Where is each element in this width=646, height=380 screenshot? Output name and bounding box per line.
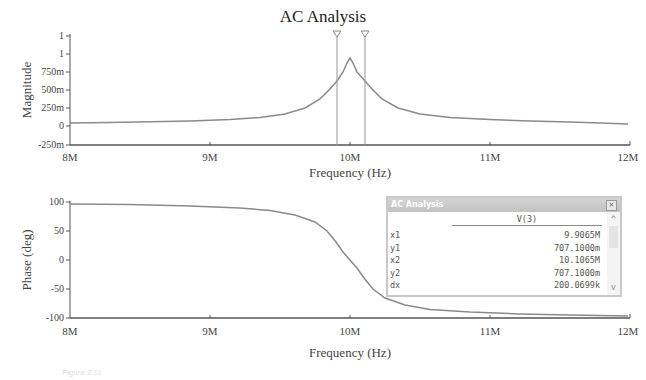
dialog-title-bar[interactable]: AC Analysis ✕ [388,198,620,212]
xtick-label: 8M [62,151,78,163]
row-value: 10.1065M [559,254,600,267]
ytick-label: 1 [59,30,64,41]
x-axis-label: Frequency (Hz) [309,345,391,360]
cursor-marker-icon[interactable] [333,31,341,37]
row-label: y1 [390,242,400,255]
readout-row: dx200.0699k [390,279,600,292]
row-label: y2 [390,267,400,280]
x-axis-label: Frequency (Hz) [309,165,391,180]
row-value: 9.9065M [564,229,600,242]
ytick-label: 500m [41,84,64,95]
xtick-label: 9M [202,325,218,337]
cursor-1[interactable] [333,31,341,145]
ytick-label: 100 [49,196,64,207]
vertical-scrollbar[interactable]: ^ v [607,212,620,295]
dialog-title: AC Analysis [391,200,443,209]
ytick-label: 250m [41,102,64,113]
magnitude-plot: 1 1 750m 500m 250m 0 -250m 8M 9M 10M 11M… [19,30,639,180]
row-label: x1 [390,229,400,242]
ytick-label: 0 [59,120,64,131]
figure-caption: Figure 2.11 [62,368,102,377]
chevron-down-icon[interactable]: v [607,282,620,293]
cursor-2[interactable] [361,31,369,145]
xtick-label: 10M [340,151,361,163]
dialog-body: V(3) x19.9065M y1707.1000m x210.1065M y2… [388,212,620,295]
readout-table: x19.9065M y1707.1000m x210.1065M y2707.1… [390,229,600,292]
row-value: 707.1000m [554,267,600,280]
xtick-label: 11M [480,151,501,163]
plot-area: 1 1 750m 500m 250m 0 -250m 8M 9M 10M 11M… [0,0,646,380]
y-axis-label: Magnitude [19,62,34,119]
row-label: dx [390,279,400,292]
cursor-marker-icon[interactable] [361,31,369,37]
ytick-label: 1 [59,48,64,59]
readout-row: x210.1065M [390,254,600,267]
ytick-label: 50 [54,225,64,236]
ytick-label: 0 [59,254,64,265]
ytick-label: -100 [46,312,64,323]
xtick-label: 12M [618,325,639,337]
xtick-label: 9M [202,151,218,163]
xtick-label: 12M [618,151,639,163]
xtick-label: 10M [340,325,361,337]
ytick-label: -50 [51,283,64,294]
xtick-label: 8M [62,325,78,337]
xtick-label: 11M [480,325,501,337]
chevron-up-icon[interactable]: ^ [607,214,620,225]
column-header: V(3) [452,214,602,226]
scrollbar-thumb[interactable] [609,226,618,248]
magnitude-trace [70,58,628,124]
readout-row: y2707.1000m [390,267,600,280]
cursor-readout-dialog[interactable]: AC Analysis ✕ V(3) x19.9065M y1707.1000m… [386,196,622,297]
close-icon[interactable]: ✕ [606,200,617,211]
y-axis-label: Phase (deg) [19,229,34,290]
row-value: 707.1000m [554,242,600,255]
row-label: x2 [390,254,400,267]
ytick-label: 750m [41,66,64,77]
readout-row: x19.9065M [390,229,600,242]
readout-row: y1707.1000m [390,242,600,255]
row-value: 200.0699k [554,279,600,292]
ytick-label: -250m [38,139,64,150]
